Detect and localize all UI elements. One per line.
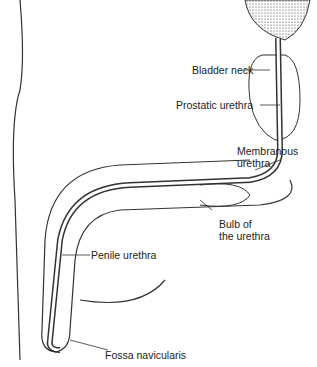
- prostate-shape: [249, 55, 300, 140]
- body-outline: [13, 0, 22, 360]
- urethra-illustration: [0, 0, 317, 367]
- label-prostatic-urethra: Prostatic urethra: [176, 99, 253, 111]
- urethra-tube: [50, 38, 280, 350]
- bulb-outline: [200, 184, 250, 207]
- scrotum-outline: [80, 280, 165, 303]
- penis-outline: [42, 160, 292, 352]
- label-penile-urethra: Penile urethra: [91, 249, 156, 261]
- bladder-shape: [245, 0, 310, 40]
- label-bulb-of-urethra: Bulb of the urethra: [219, 218, 270, 242]
- label-bladder-neck: Bladder neck: [192, 64, 253, 76]
- label-fossa-navicularis: Fossa navicularis: [105, 349, 186, 361]
- label-membranous-urethra: Membranous urethra: [237, 145, 298, 169]
